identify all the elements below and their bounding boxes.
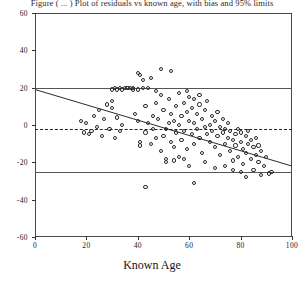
scatter-point <box>177 155 181 159</box>
scatter-point <box>113 136 117 140</box>
scatter-point <box>197 136 201 140</box>
scatter-point <box>167 121 171 125</box>
scatter-point <box>167 97 171 101</box>
scatter-point <box>154 136 158 140</box>
scatter-point <box>105 102 109 106</box>
scatter-point <box>141 86 145 90</box>
scatter-point <box>95 125 99 129</box>
scatter-point <box>236 155 240 159</box>
scatter-point <box>231 158 235 162</box>
scatter-point <box>249 157 253 161</box>
scatter-point <box>215 110 219 114</box>
scatter-point <box>218 153 222 157</box>
scatter-point <box>208 123 212 127</box>
scatter-point <box>215 134 219 138</box>
scatter-point <box>208 140 212 144</box>
scatter-point <box>226 121 230 125</box>
scatter-point <box>115 115 119 119</box>
scatter-point <box>195 112 199 116</box>
scatter-point <box>197 93 201 97</box>
scatter-point <box>197 102 201 106</box>
scatter-point <box>149 142 153 146</box>
scatter-point <box>82 130 86 134</box>
scatter-point <box>239 170 243 174</box>
scatter-point <box>223 142 227 146</box>
scatter-point <box>146 86 150 90</box>
scatter-point <box>161 134 165 138</box>
scatter-point <box>256 143 260 147</box>
scatter-point <box>89 129 93 133</box>
scatter-point <box>182 157 186 161</box>
scatter-point <box>221 130 225 134</box>
scatter-point <box>154 101 158 105</box>
scatter-point <box>226 136 230 140</box>
scatter-point <box>239 130 243 134</box>
scatter-point <box>177 123 181 127</box>
scatter-point <box>179 138 183 142</box>
scatter-point <box>182 129 186 133</box>
scatter-point <box>231 138 235 142</box>
scatter-point <box>182 101 186 105</box>
scatter-point <box>231 168 235 172</box>
scatter-point <box>249 138 253 142</box>
scatter-point <box>161 108 165 112</box>
scatter-point <box>233 132 237 136</box>
scatter-point <box>185 110 189 114</box>
regression-line-layer <box>0 0 304 281</box>
scatter-point <box>136 87 140 91</box>
scatter-point <box>179 114 183 118</box>
scatter-point <box>203 108 207 112</box>
chart-root: Figure ( ... ) Plot of residuals vs know… <box>0 0 304 281</box>
scatter-point <box>107 127 111 131</box>
scatter-point <box>254 153 258 157</box>
scatter-point <box>251 168 255 172</box>
scatter-point <box>92 114 96 118</box>
scatter-point <box>195 127 199 131</box>
scatter-point <box>213 166 217 170</box>
scatter-point <box>233 143 237 147</box>
scatter-point <box>143 130 147 134</box>
scatter-point <box>239 140 243 144</box>
scatter-point <box>218 125 222 129</box>
scatter-point <box>203 125 207 129</box>
scatter-point <box>131 87 135 91</box>
scatter-point <box>172 158 176 162</box>
scatter-point <box>262 164 266 168</box>
scatter-point <box>143 185 147 189</box>
scatter-point <box>118 129 122 133</box>
scatter-point <box>110 99 114 103</box>
scatter-point <box>164 127 168 131</box>
x-axis-title: Known Age <box>0 258 304 273</box>
scatter-point <box>244 151 248 155</box>
scatter-point <box>269 170 273 174</box>
